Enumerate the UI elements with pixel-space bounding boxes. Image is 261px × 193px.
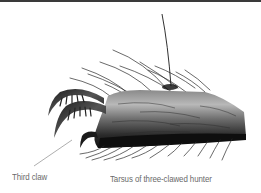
figure-caption: Tarsus of three-clawed hunter <box>110 174 212 184</box>
third-claw-leader-line <box>34 140 72 166</box>
sensory-hair <box>162 14 171 86</box>
third-claw-label: Third claw <box>12 172 47 182</box>
tarsus-illustration <box>0 0 261 193</box>
figure-panel: Third claw Tarsus of three-clawed hunter <box>0 0 261 193</box>
